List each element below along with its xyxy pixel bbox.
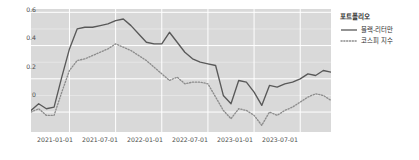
series-lines xyxy=(31,19,331,125)
legend-item-black-litterman[interactable]: 블랙-리터만 xyxy=(340,25,418,35)
legend-item-kospi-index[interactable]: 코스피 지수 xyxy=(340,36,418,46)
legend-title: 포트폴리오 xyxy=(340,13,418,22)
y-tick-label: 0.4 xyxy=(2,34,36,41)
chart-container: 0.6 0.4 0.2 0 2021-01-01 2021-07-01 2022… xyxy=(0,0,419,160)
x-tick-label: 2023-07-01 xyxy=(245,136,315,144)
plot-panel xyxy=(31,9,331,132)
legend-label: 블랙-리터만 xyxy=(358,26,393,35)
gridlines xyxy=(31,9,331,132)
legend-key-dotted-line xyxy=(340,36,358,46)
plot-svg xyxy=(31,9,331,132)
y-tick-label: 0.2 xyxy=(2,63,36,70)
y-tick-label: 0.6 xyxy=(2,6,36,13)
legend-key-solid-line xyxy=(340,25,358,35)
legend: 포트폴리오 블랙-리터만 코스피 지수 xyxy=(340,13,418,47)
legend-label: 코스피 지수 xyxy=(358,37,393,46)
y-tick-label: 0 xyxy=(2,91,36,98)
series-line xyxy=(31,19,331,110)
series-line xyxy=(31,44,331,125)
